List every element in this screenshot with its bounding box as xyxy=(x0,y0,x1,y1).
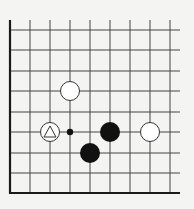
white-stone xyxy=(41,123,60,142)
stones xyxy=(41,82,160,164)
point-marks xyxy=(67,129,73,135)
white-stone-icon xyxy=(61,82,80,101)
small-dot-marker xyxy=(67,129,73,135)
board-edges xyxy=(9,20,180,194)
grid-lines xyxy=(10,20,180,193)
black-stone xyxy=(100,122,120,142)
white-stone xyxy=(141,123,160,142)
white-stone xyxy=(61,82,80,101)
black-stone-icon xyxy=(80,143,100,163)
black-stone xyxy=(80,143,100,163)
black-stone-icon xyxy=(100,122,120,142)
white-stone-icon xyxy=(141,123,160,142)
go-board-diagram xyxy=(0,0,194,209)
